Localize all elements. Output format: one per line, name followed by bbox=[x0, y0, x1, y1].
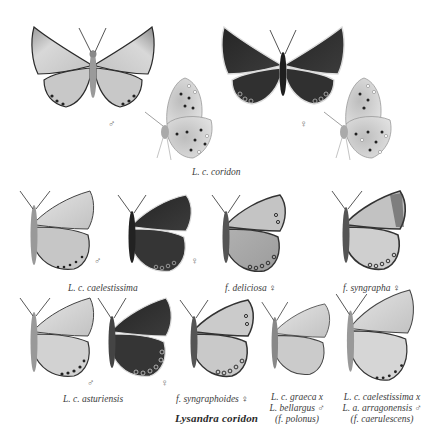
butterfly-caelestissima-male bbox=[18, 189, 98, 275]
caption-coridon: L. c. coridon bbox=[192, 167, 241, 178]
label-line: L. c. caelestissima x bbox=[334, 392, 430, 403]
butterfly-caerulescens-hybrid bbox=[334, 290, 416, 384]
caption-asturiensis: L. c. asturiensis bbox=[63, 394, 123, 405]
sex-symbol-female: ♀ bbox=[241, 394, 248, 404]
sex-symbol-female: ♀ bbox=[269, 283, 276, 293]
sex-symbol-female: ♀ bbox=[161, 377, 169, 388]
butterfly-caelestissima-female bbox=[116, 191, 196, 277]
caption-polonus: L. c. graeca x L. bellargus ♂ (f. polonu… bbox=[262, 392, 332, 425]
sex-symbol-male: ♂ bbox=[108, 118, 116, 129]
label-line: L. bellargus ♂ bbox=[262, 403, 332, 414]
butterfly-deliciosa-female bbox=[210, 191, 290, 277]
sex-symbol-male: ♂ bbox=[94, 255, 102, 266]
butterfly-asturiensis-female bbox=[96, 296, 176, 382]
sex-symbol-female: ♀ bbox=[300, 118, 308, 129]
label-syngraphoides: f. syngraphoides bbox=[176, 394, 239, 404]
label-line: (f. caerulescens) bbox=[334, 414, 430, 425]
plate-title: Lysandra coridon bbox=[175, 412, 258, 424]
label-line: L. a. arragonensis ♂ bbox=[334, 403, 430, 414]
butterfly-coridon-female-underside bbox=[324, 74, 394, 166]
sex-symbol-male: ♂ bbox=[87, 377, 95, 388]
caption-caelestissima: L. c. caelestissima bbox=[68, 283, 138, 294]
caption-deliciosa: f. deliciosa ♀ bbox=[225, 283, 276, 294]
butterfly-polonus-hybrid bbox=[260, 300, 334, 380]
butterfly-coridon-male-upperside bbox=[30, 22, 156, 112]
label-line: (f. polonus) bbox=[262, 414, 332, 425]
label-line: L. c. graeca x bbox=[262, 392, 332, 403]
butterfly-asturiensis-male bbox=[18, 296, 98, 382]
sex-symbol-female: ♀ bbox=[191, 255, 199, 266]
caption-syngraphoides: f. syngraphoides ♀ bbox=[176, 394, 248, 405]
butterfly-coridon-male-underside bbox=[145, 74, 215, 166]
caption-caerulescens: L. c. caelestissima x L. a. arragonensis… bbox=[334, 392, 430, 425]
butterfly-syngrapha-female bbox=[330, 189, 410, 275]
butterfly-syngraphoides-female bbox=[178, 296, 258, 382]
label-deliciosa: f. deliciosa bbox=[225, 283, 267, 293]
